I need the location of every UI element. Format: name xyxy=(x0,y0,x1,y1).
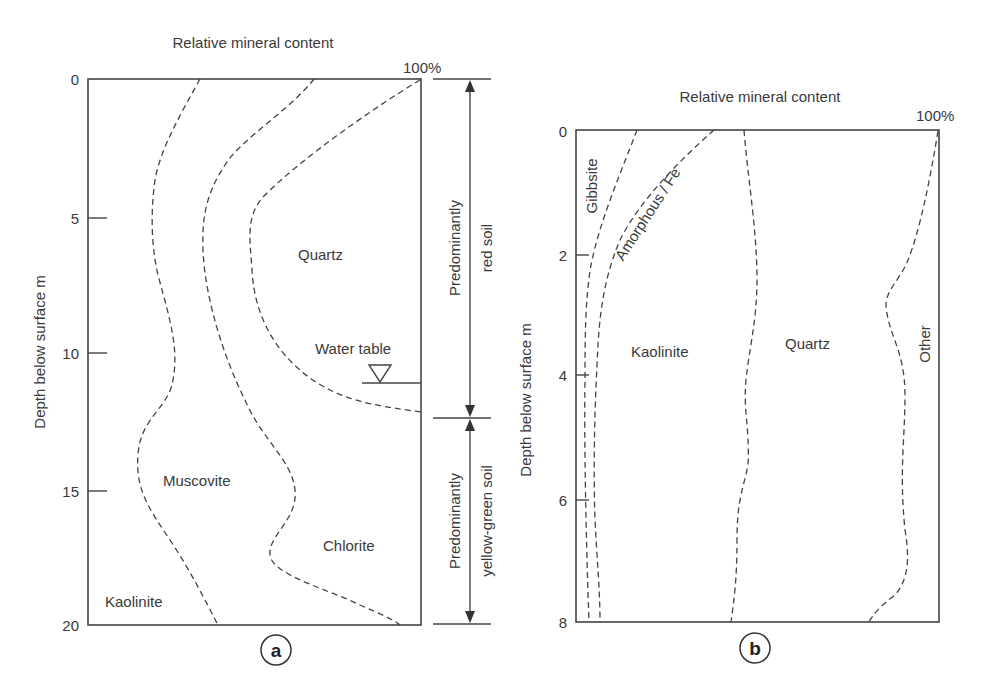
water-table-label: Water table xyxy=(315,340,391,357)
region-label-kaolinite: Kaolinite xyxy=(105,593,163,610)
region-label-quartz: Quartz xyxy=(298,246,343,263)
zone-red-soil-line1: Predominantly xyxy=(446,200,463,296)
panel-a-tag: a xyxy=(261,635,291,665)
panel-a-y-ticks xyxy=(88,218,107,491)
region-label-other: Other xyxy=(916,325,933,363)
panel-a-tick-0: 0 xyxy=(71,71,79,88)
panel-a-tag-text: a xyxy=(271,640,282,661)
region-label-kaolinite: Kaolinite xyxy=(631,343,689,360)
region-label-chlorite: Chlorite xyxy=(323,537,375,554)
panel-a-tick-20: 20 xyxy=(62,617,79,634)
panel-b-title: Relative mineral content xyxy=(680,88,842,105)
panel-b-y-axis-label: Depth below surface m xyxy=(517,323,534,476)
panel-a-100pct-label: 100% xyxy=(403,59,441,76)
panel-a-title: Relative mineral content xyxy=(173,34,335,51)
region-label-gibbsite: Gibbsite xyxy=(583,158,600,213)
panel-b-boundaries xyxy=(585,130,938,622)
zone-yellow-green-line2: yellow-green soil xyxy=(478,465,495,577)
panel-b-tag-text: b xyxy=(749,638,761,659)
arrow-down-icon xyxy=(465,405,475,417)
panel-a-tick-10: 10 xyxy=(62,345,79,362)
panel-b-tag: b xyxy=(740,633,770,663)
panel-b-tick-4: 4 xyxy=(559,367,567,384)
panel-a-tick-15: 15 xyxy=(62,483,79,500)
arrow-down-icon xyxy=(465,611,475,623)
quartz-other-boundary xyxy=(869,131,938,622)
panel-a: Relative mineral content 100% 0 5 10 15 … xyxy=(31,34,495,665)
arrow-up-icon xyxy=(465,419,475,431)
kaolinite-quartz-boundary xyxy=(731,130,757,622)
region-label-muscovite: Muscovite xyxy=(163,472,231,489)
region-label-amorphous-fe: Amorphous / Fe xyxy=(611,165,683,264)
panel-b-plot-frame xyxy=(576,130,939,622)
panel-b-tick-2: 2 xyxy=(559,247,567,264)
panel-b-y-ticks xyxy=(576,255,589,500)
water-table-icon xyxy=(362,365,421,383)
arrow-up-icon xyxy=(465,80,475,92)
panel-a-y-axis-label: Depth below surface m xyxy=(31,275,48,428)
kaolinite-muscovite-boundary xyxy=(138,79,218,625)
panel-a-tick-5: 5 xyxy=(71,210,79,227)
panel-b-tick-0: 0 xyxy=(559,123,567,140)
region-label-quartz: Quartz xyxy=(785,335,830,352)
panel-b-100pct-label: 100% xyxy=(916,107,954,124)
zone-red-soil-line2: red soil xyxy=(478,224,495,272)
panel-b-tick-6: 6 xyxy=(559,492,567,509)
zone-yellow-green-line1: Predominantly xyxy=(446,473,463,569)
panel-b-tick-8: 8 xyxy=(559,614,567,631)
panel-b: Relative mineral content 100% 0 2 4 6 8 … xyxy=(517,88,954,663)
figure-canvas: Relative mineral content 100% 0 5 10 15 … xyxy=(0,0,999,697)
